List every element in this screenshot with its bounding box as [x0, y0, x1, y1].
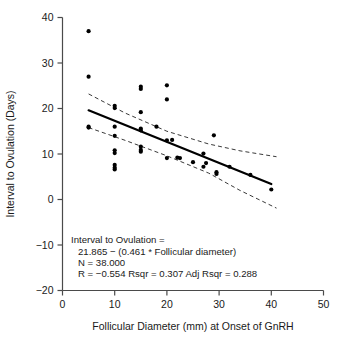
y-tick-label: −10: [36, 239, 54, 251]
chart-figure: −20−10010203040 01020304050 Interval to …: [0, 0, 341, 341]
x-tick-label: 30: [213, 298, 225, 310]
x-tick-label: 10: [109, 298, 121, 310]
data-point: [113, 125, 117, 129]
x-tick-label: 0: [60, 298, 66, 310]
data-point: [227, 165, 231, 169]
data-point: [214, 172, 218, 176]
data-point: [113, 151, 117, 155]
y-tick-label: 30: [42, 57, 54, 69]
data-point: [212, 133, 216, 137]
annotation-line-4: R = −0.554 Rsqr = 0.307 Adj Rsqr = 0.288: [78, 268, 257, 279]
y-tick-label: 0: [48, 193, 54, 205]
data-point: [178, 156, 182, 160]
data-point: [87, 29, 91, 33]
annotation-line-1: Interval to Ovulation =: [71, 234, 165, 245]
x-tick-label: 50: [318, 298, 330, 310]
data-point: [201, 165, 205, 169]
data-point: [139, 128, 143, 132]
data-point: [201, 151, 205, 155]
x-tick-label: 20: [161, 298, 173, 310]
data-point: [248, 173, 252, 177]
y-tick-label: 20: [42, 102, 54, 114]
data-point: [139, 87, 143, 91]
data-point: [204, 161, 208, 165]
data-point: [170, 138, 174, 142]
data-point: [87, 75, 91, 79]
annotation-line-2: 21.865 − (0.461 * Follicular diameter): [78, 246, 236, 257]
y-tick-label: 40: [42, 11, 54, 23]
data-point: [87, 126, 91, 130]
data-point: [113, 106, 117, 110]
data-point: [139, 110, 143, 114]
data-point: [165, 138, 169, 142]
data-point: [269, 187, 273, 191]
data-point: [113, 167, 117, 171]
y-tick-label: −20: [36, 284, 54, 296]
x-axis-title: Follicular Diameter (mm) at Onset of GnR…: [92, 320, 293, 332]
data-point: [139, 150, 143, 154]
x-tick-label: 40: [265, 298, 277, 310]
y-tick-label: 10: [42, 148, 54, 160]
data-point: [154, 125, 158, 129]
data-point: [165, 156, 169, 160]
data-point: [165, 97, 169, 101]
data-point: [191, 160, 195, 164]
annotation-line-3: N = 38.000: [78, 257, 125, 268]
scatter-plot: −20−10010203040 01020304050 Interval to …: [0, 0, 341, 341]
y-axis-title: Interval to Ovulation (Days): [4, 90, 16, 217]
data-point: [165, 83, 169, 87]
data-point: [113, 134, 117, 138]
